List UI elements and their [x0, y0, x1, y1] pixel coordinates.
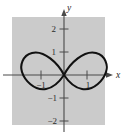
x-axis-label: x — [115, 70, 121, 80]
lemniscate-plot: 2 1 −1 −2 −1 1 x y — [0, 0, 125, 136]
figure-container: 2 1 −1 −2 −1 1 x y — [0, 0, 125, 136]
plot-background-panel — [12, 17, 105, 125]
y-axis-arrowhead — [61, 9, 66, 16]
y-axis-label: y — [66, 3, 72, 13]
x-tick-label-neg1: −1 — [36, 80, 46, 90]
y-tick-label-2: 2 — [52, 24, 57, 34]
x-axis-arrowhead — [106, 72, 113, 77]
x-tick-label-1: 1 — [86, 80, 91, 90]
y-tick-label-neg1: −1 — [47, 93, 57, 103]
y-tick-label-neg2: −2 — [47, 116, 57, 126]
y-tick-label-1: 1 — [52, 47, 57, 57]
